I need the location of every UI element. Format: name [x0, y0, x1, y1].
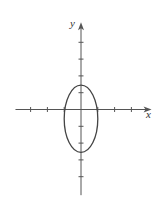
x-axis-label: x [146, 109, 151, 120]
y-axis-label: y [70, 18, 75, 29]
coordinate-plane [0, 0, 165, 209]
